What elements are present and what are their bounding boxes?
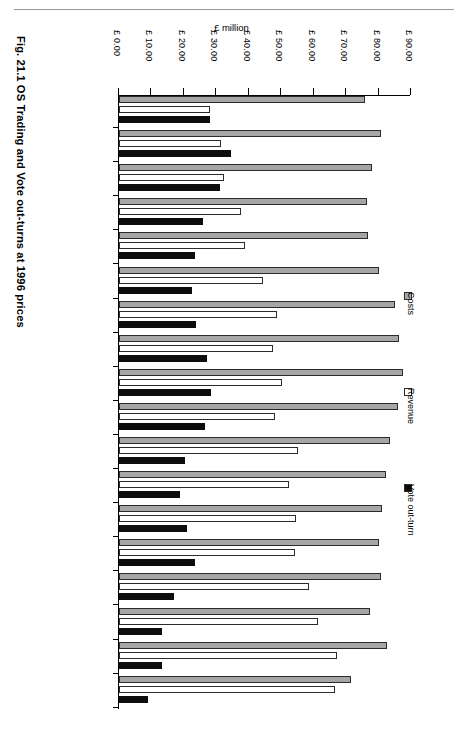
bar-revenue[interactable] [119, 208, 241, 215]
value-axis-tick [183, 88, 184, 95]
category-axis-tick [113, 604, 118, 605]
bar-group [118, 163, 410, 197]
bar-costs[interactable] [119, 369, 403, 376]
bar-group [118, 470, 410, 504]
figure-caption: Fig. 21.1 OS Trading and Vote out-turns … [10, 36, 32, 336]
bar-revenue[interactable] [119, 686, 335, 693]
bar-vote-out-turn[interactable] [119, 184, 220, 191]
bar-costs[interactable] [119, 573, 381, 580]
bar-vote-out-turn[interactable] [119, 662, 162, 669]
value-axis-tick-label: £ 90.00 [404, 30, 414, 61]
bar-costs[interactable] [119, 676, 351, 683]
page-top-rule [14, 9, 454, 10]
bar-group [118, 231, 410, 265]
bar-costs[interactable] [119, 403, 398, 410]
bar-group [118, 368, 410, 402]
bar-group [118, 641, 410, 675]
bar-group [118, 95, 410, 129]
legend-label: Vote out-turn [406, 484, 416, 536]
bar-vote-out-turn[interactable] [119, 116, 210, 123]
bar-revenue[interactable] [119, 481, 289, 488]
value-axis-tick [378, 88, 379, 95]
bar-costs[interactable] [119, 471, 386, 478]
bar-costs[interactable] [119, 505, 382, 512]
bar-revenue[interactable] [119, 106, 210, 113]
bar-vote-out-turn[interactable] [119, 252, 195, 259]
category-axis-tick [113, 229, 118, 230]
bar-vote-out-turn[interactable] [119, 593, 174, 600]
bar-revenue[interactable] [119, 515, 296, 522]
legend-entry[interactable]: Costs [404, 292, 466, 302]
bar-vote-out-turn[interactable] [119, 696, 148, 703]
bar-revenue[interactable] [119, 549, 295, 556]
bar-revenue[interactable] [119, 652, 337, 659]
bar-revenue[interactable] [119, 379, 282, 386]
bar-costs[interactable] [119, 130, 381, 137]
category-axis-tick [113, 195, 118, 196]
value-axis-tick [410, 88, 411, 95]
bar-vote-out-turn[interactable] [119, 287, 192, 294]
bar-vote-out-turn[interactable] [119, 423, 205, 430]
bar-costs[interactable] [119, 267, 379, 274]
bar-vote-out-turn[interactable] [119, 321, 196, 328]
bar-group [118, 572, 410, 606]
category-axis-tick [113, 536, 118, 537]
bar-revenue[interactable] [119, 413, 275, 420]
bar-vote-out-turn[interactable] [119, 457, 185, 464]
bar-costs[interactable] [119, 232, 368, 239]
legend-entry[interactable]: Revenue [404, 388, 466, 398]
bar-vote-out-turn[interactable] [119, 150, 231, 157]
category-axis-tick [113, 570, 118, 571]
bar-vote-out-turn[interactable] [119, 218, 203, 225]
bar-revenue[interactable] [119, 583, 309, 590]
category-axis-tick [113, 434, 118, 435]
bar-costs[interactable] [119, 301, 395, 308]
bar-group [118, 607, 410, 641]
value-axis-tick-label: £ 50.00 [274, 30, 284, 61]
legend-label: Revenue [406, 388, 416, 424]
bar-costs[interactable] [119, 437, 390, 444]
bar-vote-out-turn[interactable] [119, 491, 180, 498]
legend-label: Costs [406, 292, 416, 315]
bar-costs[interactable] [119, 608, 370, 615]
category-axis-tick [113, 366, 118, 367]
bar-revenue[interactable] [119, 345, 273, 352]
category-axis-tick [113, 400, 118, 401]
bar-group [118, 504, 410, 538]
bar-revenue[interactable] [119, 242, 245, 249]
bar-revenue[interactable] [119, 277, 263, 284]
category-axis-tick [113, 707, 118, 708]
category-axis-tick [113, 161, 118, 162]
category-axis-tick [113, 639, 118, 640]
bar-group [118, 538, 410, 572]
bar-revenue[interactable] [119, 311, 277, 318]
value-axis-tick-label: £ 30.00 [209, 30, 219, 61]
bar-costs[interactable] [119, 539, 379, 546]
bar-group [118, 197, 410, 231]
value-axis-tick [150, 88, 151, 95]
bar-group [118, 675, 410, 709]
bar-costs[interactable] [119, 198, 367, 205]
bar-vote-out-turn[interactable] [119, 389, 211, 396]
bar-costs[interactable] [119, 164, 372, 171]
bar-vote-out-turn[interactable] [119, 628, 162, 635]
bar-costs[interactable] [119, 642, 387, 649]
chart-plot-area [118, 95, 410, 709]
value-axis-tick-label: £ 60.00 [307, 30, 317, 61]
bar-costs[interactable] [119, 335, 399, 342]
value-axis-tick [215, 88, 216, 95]
legend-entry[interactable]: Vote out-turn [404, 484, 466, 494]
bar-revenue[interactable] [119, 618, 318, 625]
bar-costs[interactable] [119, 96, 365, 103]
value-axis-tick-label: £ 20.00 [177, 30, 187, 61]
bar-vote-out-turn[interactable] [119, 559, 195, 566]
value-axis-tick-label: £ 80.00 [372, 30, 382, 61]
bar-revenue[interactable] [119, 447, 298, 454]
bar-revenue[interactable] [119, 174, 224, 181]
bar-revenue[interactable] [119, 140, 221, 147]
bar-vote-out-turn[interactable] [119, 355, 207, 362]
value-axis-tick [248, 88, 249, 95]
bar-group [118, 300, 410, 334]
category-axis-tick [113, 298, 118, 299]
bar-vote-out-turn[interactable] [119, 525, 187, 532]
